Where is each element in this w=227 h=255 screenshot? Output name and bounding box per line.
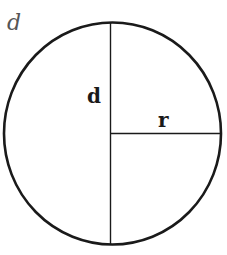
circle-diagram: d d r — [0, 0, 227, 255]
radius-label: r — [158, 108, 169, 132]
diagram-title: d — [7, 10, 21, 35]
diameter-label: d — [87, 84, 101, 108]
